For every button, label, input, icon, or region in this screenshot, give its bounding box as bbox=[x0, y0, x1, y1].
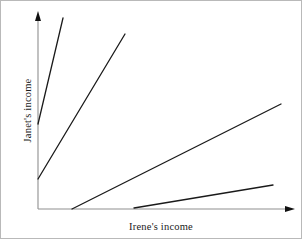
plot-canvas bbox=[1, 1, 302, 239]
y-axis-arrowhead bbox=[35, 11, 41, 21]
y-axis-label: Janet's income bbox=[22, 61, 33, 161]
data-line-segment-1 bbox=[38, 18, 63, 124]
data-line-segment-2 bbox=[38, 34, 125, 179]
data-lines-group bbox=[38, 18, 281, 209]
data-line-segment-4 bbox=[134, 185, 273, 208]
x-axis-label: Irene's income bbox=[1, 221, 302, 232]
data-line-segment-3 bbox=[72, 104, 281, 209]
x-axis-arrowhead bbox=[285, 206, 295, 212]
figure-container: Irene's income Janet's income bbox=[0, 0, 302, 239]
axes-group bbox=[35, 11, 295, 212]
